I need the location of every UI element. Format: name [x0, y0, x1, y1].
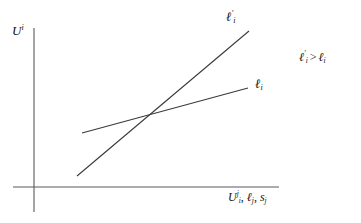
y-axis-label: Ui [12, 24, 24, 37]
curve-label-ell-prime-i: ℓ′i [226, 10, 235, 25]
x-axis-label-base: U [228, 190, 237, 204]
inequality-annotation: ℓ′i>ℓi [299, 50, 326, 64]
curve-label-shallow-subscript: i [260, 83, 262, 92]
annotation-operator: > [308, 50, 319, 64]
line-ell-i [82, 88, 248, 133]
curve-label-steep-subscript: i [233, 16, 235, 25]
line-ell-prime-i [77, 31, 249, 176]
figure-canvas [0, 0, 361, 223]
x-axis-label: Uji, ℓj, sj [228, 190, 267, 204]
y-axis-label-base: U [12, 23, 21, 38]
curve-label-ell-i: ℓi [255, 77, 263, 92]
annotation-right-subscript: i [324, 56, 326, 65]
x-axis-label-s-subscript: j [265, 196, 267, 205]
y-axis-label-superscript: i [21, 23, 23, 32]
